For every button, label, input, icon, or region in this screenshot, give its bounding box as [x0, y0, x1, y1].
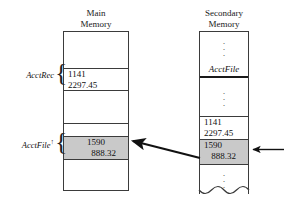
label-acctfile-pointer: AcctFile↑	[2, 138, 54, 150]
secondary-memory-box: · · · AcctFile · · · 1141 2297.45 1590 8…	[199, 31, 249, 194]
secondary-record-2-key: 1590	[200, 140, 248, 151]
main-memory-title: Main Memory	[56, 8, 136, 29]
secondary-record-1-amount: 2297.45	[200, 128, 248, 139]
main-acctfile-key: 1590	[64, 137, 128, 148]
up-arrow-icon: ↑	[51, 138, 55, 146]
secondary-record-1-cell: 1141 2297.45	[200, 116, 248, 140]
main-acctrec-key: 1141	[64, 69, 128, 80]
main-memory-box: 1141 2297.45 1590 888.32	[63, 31, 129, 191]
main-acctrec-cell: 1141 2297.45	[64, 68, 128, 91]
secondary-ellipsis-bottom: · · ·	[200, 172, 248, 190]
secondary-ellipsis-middle: · · ·	[200, 90, 248, 108]
main-acctrec-amount: 2297.45	[64, 80, 128, 91]
main-blank-cell	[64, 91, 128, 124]
label-acctrec: AcctRec	[6, 70, 54, 80]
brace-acctrec: {	[55, 60, 67, 86]
brace-acctfile-pointer: {	[55, 129, 67, 155]
secondary-acctfile-name: AcctFile	[200, 64, 248, 75]
label-acctfile-pointer-text: AcctFile	[22, 140, 51, 150]
transfer-arrow	[133, 141, 200, 158]
secondary-record-2-cell: 1590 888.32	[200, 140, 248, 165]
secondary-record-2-amount: 888.32	[200, 151, 248, 162]
secondary-acctfile-header-cell: AcctFile	[200, 64, 248, 78]
secondary-ellipsis-top: · · ·	[200, 40, 248, 58]
main-acctfile-buffer-cell: 1590 888.32	[64, 136, 128, 160]
secondary-memory-title: Secondary Memory	[189, 8, 259, 29]
secondary-record-1-key: 1141	[200, 117, 248, 128]
main-acctfile-amount: 888.32	[64, 148, 128, 159]
memory-transfer-diagram: Main Memory 1141 2297.45 1590 888.32 Acc…	[0, 0, 287, 210]
